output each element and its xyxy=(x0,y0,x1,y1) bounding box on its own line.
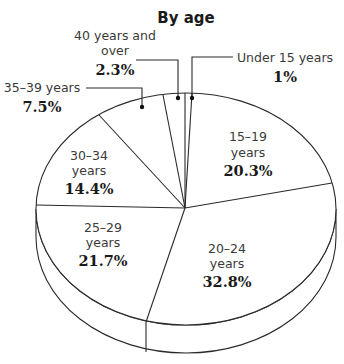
svg-text:7.5%: 7.5% xyxy=(22,98,61,115)
svg-text:30–34: 30–34 xyxy=(70,148,108,163)
svg-text:years: years xyxy=(210,256,244,271)
svg-text:Under 15 years: Under 15 years xyxy=(237,50,333,65)
callout-dot xyxy=(176,96,180,100)
pie-top xyxy=(36,93,336,325)
svg-text:32.8%: 32.8% xyxy=(202,273,251,290)
svg-text:years: years xyxy=(72,163,106,178)
svg-text:20–24: 20–24 xyxy=(208,241,246,256)
callout-dot xyxy=(140,105,144,109)
callout-dot xyxy=(190,96,194,100)
svg-text:2.3%: 2.3% xyxy=(95,61,134,78)
svg-text:40 years and: 40 years and xyxy=(74,28,156,43)
svg-text:over: over xyxy=(101,43,130,58)
callout-40-plus: 40 years and over 2.3% xyxy=(74,28,180,100)
svg-text:20.3%: 20.3% xyxy=(223,162,272,179)
svg-text:25–29: 25–29 xyxy=(84,220,122,235)
svg-text:15–19: 15–19 xyxy=(229,129,267,144)
svg-text:21.7%: 21.7% xyxy=(78,252,127,269)
svg-text:years: years xyxy=(86,235,120,250)
svg-text:35–39 years: 35–39 years xyxy=(4,80,80,95)
chart-title: By age xyxy=(157,9,214,27)
svg-text:years: years xyxy=(231,145,265,160)
svg-text:14.4%: 14.4% xyxy=(64,180,113,197)
callout-under-15: Under 15 years 1% xyxy=(190,50,333,100)
pie-chart: By age 15–19 years 20.3% 20–24 years 32.… xyxy=(0,0,344,364)
svg-text:1%: 1% xyxy=(273,68,297,85)
